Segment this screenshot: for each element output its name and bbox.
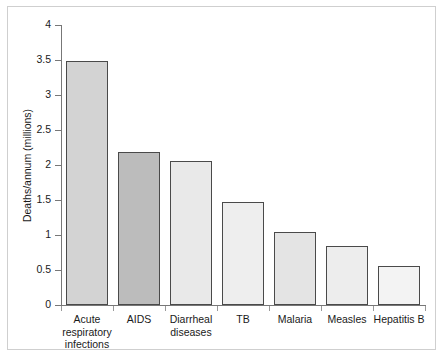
x-axis-line [61,305,426,306]
x-tick-mark [113,306,114,311]
figure-canvas: 00.511.522.533.54 Deaths/annum (millions… [0,0,443,363]
x-category-label-line: Hepatitis B [364,313,434,326]
bar[interactable] [274,232,316,306]
bar[interactable] [170,161,212,305]
bar[interactable] [66,61,108,305]
y-tick-mark [55,270,61,271]
x-tick-mark-end [425,306,426,311]
y-axis-line [61,25,62,306]
y-tick-mark [55,60,61,61]
y-tick-mark [55,95,61,96]
bar-chart-plot-area: 00.511.522.533.54 Deaths/annum (millions… [0,0,443,363]
x-tick-mark [269,306,270,311]
y-tick: 3.5 [0,60,61,61]
x-tick-mark [217,306,218,311]
x-category-label: Hepatitis B [364,313,434,326]
x-tick-mark [165,306,166,311]
y-tick: 0 [0,305,61,306]
x-tick-mark [373,306,374,311]
y-tick-mark [55,25,61,26]
y-tick-label: 0.5 [11,264,51,275]
bar[interactable] [118,152,160,305]
y-tick: 4 [0,25,61,26]
y-axis-title: Deaths/annum (millions) [22,76,33,256]
x-tick-mark [61,306,62,311]
y-tick-mark [55,130,61,131]
bar[interactable] [378,266,420,305]
y-tick-mark [55,235,61,236]
y-tick-mark [55,200,61,201]
x-category-label-line: respiratory [52,326,122,339]
bar[interactable] [222,202,264,305]
x-category-label-line: diseases [156,326,226,339]
y-tick-label: 4 [11,19,51,30]
y-tick-mark [55,165,61,166]
x-category-label-line: infections [52,338,122,351]
y-tick-label: 3.5 [11,54,51,65]
x-tick-mark [321,306,322,311]
bar[interactable] [326,246,368,305]
y-tick-label: 0 [11,299,51,310]
y-tick: 0.5 [0,270,61,271]
